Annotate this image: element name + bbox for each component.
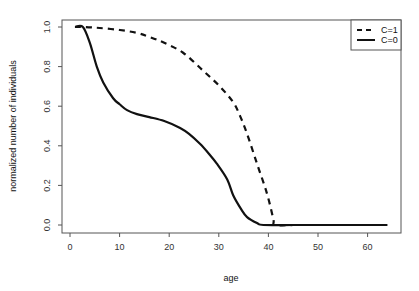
series-layer <box>75 26 387 226</box>
y-axis-label: normalized number of individuals <box>8 60 18 192</box>
y-tick-label: 0.6 <box>42 100 52 113</box>
y-tick-label: 0.8 <box>42 60 52 73</box>
series-line-c0 <box>75 26 387 225</box>
y-tick-label: 0.0 <box>42 219 52 232</box>
plot-frame <box>62 20 401 233</box>
x-tick-label: 30 <box>214 242 224 252</box>
x-axis-label: age <box>223 273 238 283</box>
x-tick-label: 10 <box>115 242 125 252</box>
series-line-c1 <box>75 27 387 226</box>
x-tick-label: 60 <box>363 242 373 252</box>
legend-label-c0: C=0 <box>381 35 398 45</box>
legend: C=1 C=0 <box>351 20 401 50</box>
y-tick-label: 1.0 <box>42 21 52 34</box>
legend-label-c1: C=1 <box>381 25 398 35</box>
x-tick-label: 40 <box>263 242 273 252</box>
x-tick-label: 50 <box>313 242 323 252</box>
x-axis: 0102030405060 <box>67 233 372 252</box>
y-axis: 0.00.20.40.60.81.0 <box>42 21 62 232</box>
y-tick-label: 0.2 <box>42 179 52 192</box>
x-tick-label: 0 <box>67 242 72 252</box>
x-tick-label: 20 <box>164 242 174 252</box>
y-tick-label: 0.4 <box>42 140 52 153</box>
line-chart: 0102030405060 0.00.20.40.60.81.0 age nor… <box>0 0 419 291</box>
